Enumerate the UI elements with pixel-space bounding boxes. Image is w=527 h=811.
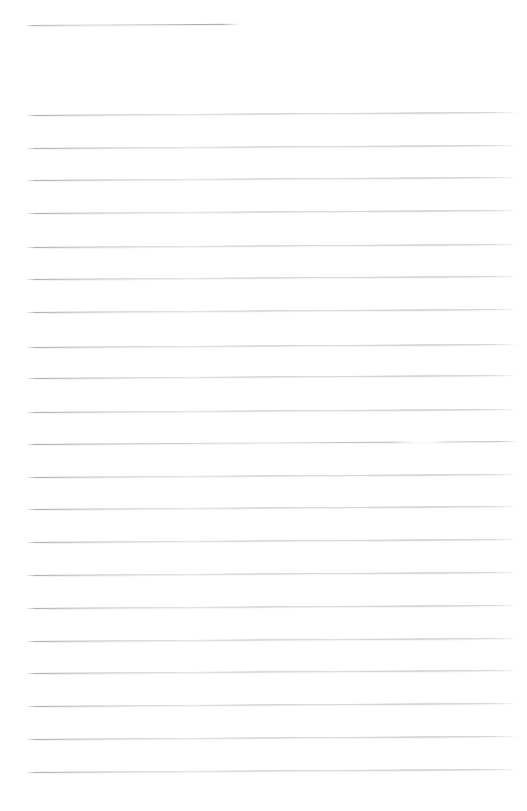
- rule-11: [26, 409, 518, 413]
- rule-20: [26, 703, 518, 707]
- rule-9: [26, 344, 518, 348]
- rule-22: [26, 769, 518, 773]
- rule-6: [26, 244, 518, 248]
- rule-13: [26, 474, 518, 478]
- rule-3: [26, 145, 518, 149]
- rule-21: [26, 736, 518, 740]
- rule-4: [26, 177, 518, 181]
- rule-15: [26, 539, 518, 543]
- rule-1: [26, 24, 240, 26]
- page-surface: [0, 0, 527, 811]
- rule-18: [26, 638, 518, 642]
- lined-page-canvas: [0, 0, 527, 811]
- rule-14: [26, 506, 518, 510]
- rule-12: [26, 441, 518, 445]
- rule-17: [26, 605, 518, 609]
- rule-8: [26, 309, 518, 313]
- rule-10: [26, 375, 518, 379]
- rule-7: [26, 276, 518, 280]
- rule-16: [26, 572, 518, 576]
- rule-5: [26, 210, 518, 214]
- rule-2: [26, 112, 518, 116]
- rule-19: [26, 670, 518, 674]
